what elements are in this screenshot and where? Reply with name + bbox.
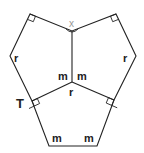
center-right-edge — [72, 82, 114, 100]
outer-boundary — [10, 14, 136, 146]
label-r-right: r — [123, 52, 128, 64]
outline — [10, 14, 136, 146]
label-m-bottom-right: m — [84, 132, 94, 144]
label-m-center-right: m — [77, 70, 87, 82]
label-m-bottom-left: m — [52, 132, 62, 144]
right-angle-lower-left-lower — [29, 101, 34, 109]
pentagon-diagram: x r r m m r T m m — [0, 0, 144, 153]
center-left-edge — [32, 82, 72, 101]
label-r-left: r — [14, 52, 19, 64]
right-angle-lower-right-lower — [112, 100, 118, 108]
label-T: T — [16, 96, 24, 111]
label-r-center: r — [69, 86, 74, 98]
label-x: x — [69, 18, 74, 29]
label-m-center-left: m — [58, 70, 68, 82]
